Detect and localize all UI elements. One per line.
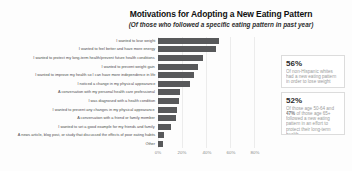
bar [158,55,203,61]
category-label-cell: I wanted to set a good example for my fr… [0,122,158,131]
chart-row: I wanted to protect my long-term health/… [0,54,255,63]
bar [158,72,194,78]
bar [158,89,180,95]
callout-box-protect-health: 52% Of those age 50-64 and 47% of those … [281,92,345,135]
bar-track [158,105,255,114]
callout-text-lead: Of those age 50-64 and [286,106,334,111]
x-axis: 0%20%40%60%80% [158,150,255,159]
chart-row: Other [0,140,255,149]
category-label: I wanted to protect my long-term health/… [34,56,155,60]
callout-text: Of those age 50-64 and 47% of those age … [286,106,340,135]
bar-track [158,122,255,131]
callout-column: 56% Of non-Hispanic whites had a new eat… [281,35,345,160]
category-label: A news article, blog post, or study that… [18,133,155,137]
bar-track [158,140,255,149]
category-label-cell: A conversation with a friend or family m… [0,114,158,123]
callout-box-lose-weight: 56% Of non-Hispanic whites had a new eat… [281,55,345,88]
bar-chart: I wanted to lose weightI wanted to feel … [0,35,255,160]
category-label-cell: I wanted to feel better and have more en… [0,45,158,54]
x-axis-tick: 20% [178,150,187,155]
callout-value: 56% [286,59,340,68]
bar-track [158,79,255,88]
chart-row: I was diagnosed with a health condition [0,97,255,106]
category-label: I wanted to improve my health so I can h… [35,73,155,77]
bar [158,98,179,104]
bar [158,124,171,130]
category-label-cell: A conversation with my personal health c… [0,88,158,97]
bar-track [158,54,255,63]
chart-subtitle: (Of those who followed a specific eating… [94,21,348,28]
category-label: I wanted to feel better and have more en… [79,47,155,51]
bar [158,115,176,121]
bar [158,46,216,52]
bar-track [158,97,255,106]
category-label: I wanted to set a good example for my fr… [59,125,155,129]
callout-text-bold: 47% [286,111,295,116]
callout-text: Of non-Hispanic whites had a new eating … [286,69,340,85]
category-label: I noticed a change in my physical appear… [77,82,155,86]
bar-track [158,45,255,54]
chart-row: I wanted to improve my health so I can h… [0,71,255,80]
chart-body: I wanted to lose weightI wanted to feel … [0,35,352,160]
chart-header: Motivations for Adopting a New Eating Pa… [0,0,352,28]
category-label: Other [145,142,155,146]
chart-row: I wanted to feel better and have more en… [0,45,255,54]
bar-track [158,37,255,46]
bar [158,38,219,44]
bar-track [158,62,255,71]
x-axis-tick: 0% [155,150,161,155]
chart-row: I noticed a change in my physical appear… [0,79,255,88]
callout-value: 52% [286,96,340,105]
x-axis-tick: 60% [226,150,235,155]
category-label-cell: Other [0,140,158,149]
chart-row: I wanted to prevent any changes in my ph… [0,105,255,114]
bar [158,107,177,113]
bar-track [158,131,255,140]
category-label: A conversation with my personal health c… [58,90,155,94]
x-axis-tick: 80% [251,150,260,155]
bar-track [158,71,255,80]
bar-track [158,88,255,97]
bar-track [158,114,255,123]
category-label-cell: I wanted to lose weight [0,37,158,46]
category-label-cell: I noticed a change in my physical appear… [0,79,158,88]
category-label: I wanted to prevent weight gain [102,64,155,68]
bar [158,141,163,147]
category-label: I wanted to prevent any changes in my ph… [53,107,155,111]
category-label-cell: I wanted to prevent weight gain [0,62,158,71]
category-label: I wanted to lose weight [116,39,155,43]
category-label-cell: I wanted to protect my long-term health/… [0,54,158,63]
bar [158,132,164,138]
chart-row: A conversation with my personal health c… [0,88,255,97]
category-label-cell: I was diagnosed with a health condition [0,97,158,106]
category-label: I was diagnosed with a health condition [88,99,155,103]
chart-row: A conversation with a friend or family m… [0,114,255,123]
x-axis-tick: 40% [202,150,211,155]
chart-title: Motivations for Adopting a New Eating Pa… [94,9,348,19]
bar [158,81,190,87]
bar-rows: I wanted to lose weightI wanted to feel … [0,37,255,149]
category-label-cell: I wanted to improve my health so I can h… [0,71,158,80]
chart-row: I wanted to set a good example for my fr… [0,122,255,131]
chart-row: I wanted to prevent weight gain [0,62,255,71]
category-label-cell: I wanted to prevent any changes in my ph… [0,105,158,114]
category-label: A conversation with a friend or family m… [77,116,155,120]
chart-row: A news article, blog post, or study that… [0,131,255,140]
category-label-cell: A news article, blog post, or study that… [0,131,158,140]
chart-row: I wanted to lose weight [0,37,255,46]
bar [158,64,198,70]
chart-canvas: Motivations for Adopting a New Eating Pa… [0,0,352,171]
